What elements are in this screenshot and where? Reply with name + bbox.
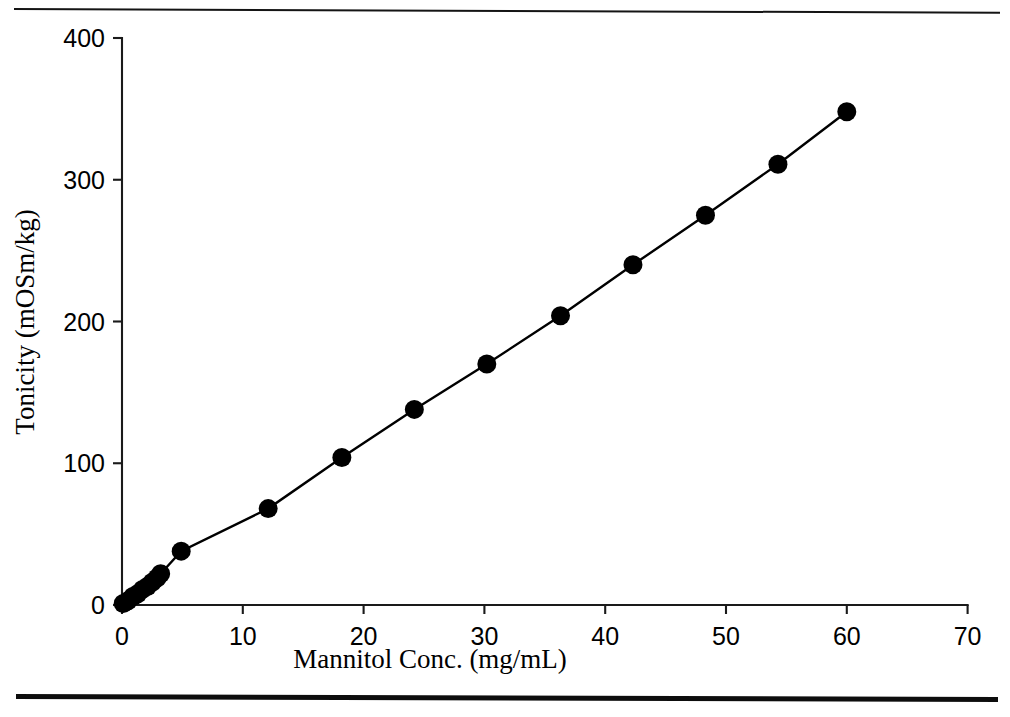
data-point-marker [837,102,856,121]
data-point-marker [151,564,170,583]
x-tick-label: 10 [229,622,257,650]
y-tick-label: 200 [63,308,105,336]
x-tick-label: 40 [591,622,619,650]
x-axis-title: Mannitol Conc. (mg/mL) [293,644,567,674]
y-tick-label: 400 [63,24,105,52]
data-point-marker [477,355,496,374]
y-axis-title: Tonicity (mOSm/kg) [10,209,40,434]
data-point-marker [623,255,642,274]
y-tick-label: 0 [91,591,105,619]
data-point-marker [696,206,715,225]
axes-group [122,38,968,605]
data-point-marker [551,306,570,325]
axis-spine [122,38,968,605]
y-tick-label: 100 [63,449,105,477]
data-point-marker [172,542,191,561]
data-point-marker [332,448,351,467]
y-tick-labels: 0100200300400 [63,24,105,619]
data-point-marker [259,499,278,518]
ticks-group [113,38,968,614]
figure-container: 010203040506070 0100200300400 Mannitol C… [0,0,1010,717]
tonicity-vs-mannitol-chart: 010203040506070 0100200300400 Mannitol C… [0,0,1010,717]
x-tick-label: 0 [115,622,129,650]
data-point-marker [405,400,424,419]
data-point-marker [768,155,787,174]
x-tick-label: 70 [954,622,982,650]
x-tick-label: 50 [712,622,740,650]
data-series-group [114,102,857,613]
x-tick-label: 60 [833,622,861,650]
y-tick-label: 300 [63,166,105,194]
